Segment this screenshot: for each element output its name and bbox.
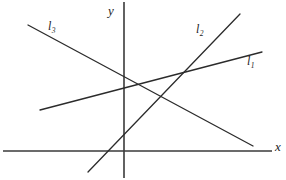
line-label-l3-subscript: 3	[52, 26, 56, 35]
line-label-l3: l3	[48, 20, 55, 32]
line-label-l2: l2	[196, 23, 203, 35]
coordinate-plane-figure: y x l1 l2 l3	[0, 0, 286, 180]
line-l1	[40, 52, 262, 110]
line-l3	[28, 25, 253, 146]
line-label-l3-base: l	[48, 19, 51, 33]
y-axis-label: y	[108, 4, 114, 17]
line-label-l2-base: l	[196, 22, 199, 36]
figure-canvas	[0, 0, 286, 180]
line-label-l1-base: l	[247, 54, 250, 68]
x-axis-label: x	[275, 140, 281, 153]
line-label-l1-subscript: 1	[251, 61, 255, 70]
line-label-l2-subscript: 2	[200, 29, 204, 38]
line-label-l1: l1	[247, 55, 254, 67]
line-l2	[88, 14, 240, 172]
